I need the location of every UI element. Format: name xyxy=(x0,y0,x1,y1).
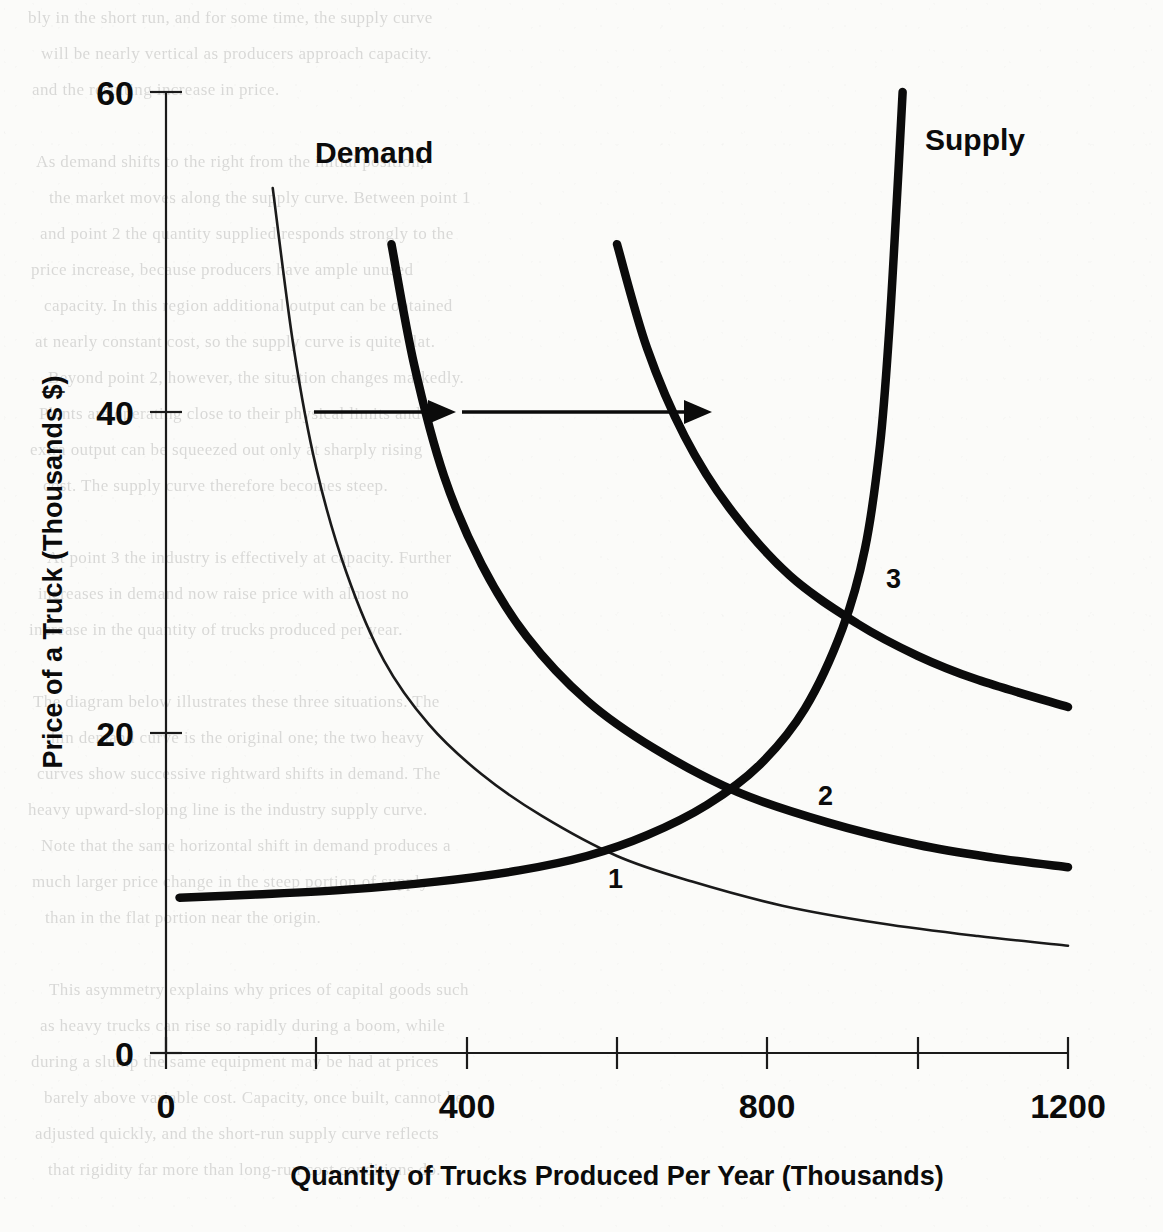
axes-group xyxy=(166,92,1068,1053)
y-axis-tick-labels: 60 40 20 0 xyxy=(96,74,134,1073)
supply-curve-label: Supply xyxy=(925,123,1025,156)
x-tick-label-0: 0 xyxy=(157,1087,176,1125)
chart-svg: 60 40 20 0 0 400 800 1200 Quantity of Tr… xyxy=(0,0,1163,1232)
equilibrium-point-label-1: 1 xyxy=(608,864,623,894)
arrow-1-head xyxy=(428,400,456,424)
y-axis-title: Price of a Truck (Thousands $) xyxy=(38,375,68,768)
demand-curve-2 xyxy=(392,244,1069,867)
x-axis-tick-labels: 0 400 800 1200 xyxy=(157,1087,1106,1125)
x-tick-label-800: 800 xyxy=(739,1087,796,1125)
y-tick-label-20: 20 xyxy=(96,715,134,753)
supply-demand-chart: 60 40 20 0 0 400 800 1200 Quantity of Tr… xyxy=(0,0,1163,1232)
x-tick-label-1200: 1200 xyxy=(1030,1087,1106,1125)
equilibrium-point-label-2: 2 xyxy=(818,781,833,811)
demand-curve-1 xyxy=(273,188,1068,946)
x-tick-label-400: 400 xyxy=(439,1087,496,1125)
y-tick-label-40: 40 xyxy=(96,394,134,432)
y-tick-label-0: 0 xyxy=(115,1035,134,1073)
demand-curve-label: Demand xyxy=(315,136,433,169)
demand-shift-arrows xyxy=(314,400,712,424)
supply-curve xyxy=(180,92,903,898)
demand-shift-arrow-1 xyxy=(314,400,456,424)
curves-group xyxy=(180,92,1068,946)
arrow-2-head xyxy=(684,400,712,424)
y-tick-label-60: 60 xyxy=(96,74,134,112)
equilibrium-point-label-3: 3 xyxy=(886,564,901,594)
x-axis-title: Quantity of Trucks Produced Per Year (Th… xyxy=(290,1161,944,1191)
